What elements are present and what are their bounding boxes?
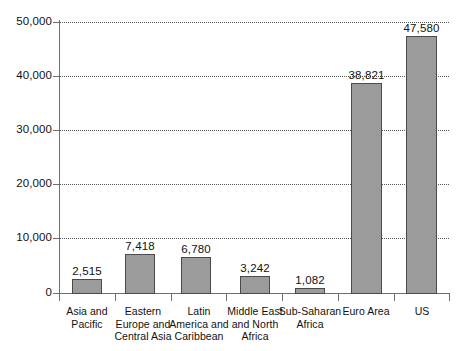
x-tick-4: [282, 294, 283, 301]
gridline-10000: [59, 238, 449, 239]
bar-value-us: 47,580: [386, 22, 457, 34]
y-axis-label-0: 0: [0, 287, 52, 299]
bar-us[interactable]: [406, 36, 437, 294]
bar-value-middle-east-north-africa: 3,242: [220, 262, 290, 274]
y-tick-20000: [53, 184, 60, 185]
y-axis-label-40000: 40,000: [0, 70, 52, 82]
x-tick-1: [115, 294, 116, 301]
bar-asia-and-pacific[interactable]: [72, 279, 102, 294]
x-axis-label-line: Pacific: [57, 318, 117, 331]
bar-chart: 50,000 40,000 30,000 20,000 10,000 0 2,5…: [0, 0, 465, 351]
x-axis-label-line: Africa: [277, 318, 343, 331]
bar-middle-east-north-africa[interactable]: [240, 276, 270, 294]
y-axis-label-30000: 30,000: [0, 124, 52, 136]
bar-euro-area[interactable]: [351, 83, 382, 294]
x-tick-6: [394, 294, 395, 301]
bar-value-asia-and-pacific: 2,515: [52, 265, 122, 277]
x-axis-label-line: Asia and: [57, 305, 117, 318]
x-axis-label-line: Africa: [222, 330, 288, 343]
y-axis-line: [59, 20, 60, 295]
bar-sub-saharan-africa[interactable]: [295, 288, 325, 294]
y-tick-10000: [53, 238, 60, 239]
bar-value-latin-america-caribbean: 6,780: [161, 243, 231, 255]
y-axis-label-20000: 20,000: [0, 178, 52, 190]
x-tick-3: [226, 294, 227, 301]
y-axis-label-50000: 50,000: [0, 16, 52, 28]
x-tick-7: [449, 294, 450, 301]
gridline-20000: [59, 184, 449, 185]
x-axis-label-line: US: [389, 305, 455, 318]
y-tick-30000: [53, 130, 60, 131]
x-tick-0: [59, 294, 60, 301]
x-axis-label-us: US: [389, 305, 455, 318]
bar-eastern-europe-central-asia[interactable]: [125, 254, 155, 294]
bar-value-sub-saharan-africa: 1,082: [275, 274, 345, 286]
bar-value-euro-area: 38,821: [331, 69, 402, 81]
bar-latin-america-caribbean[interactable]: [181, 257, 211, 294]
x-tick-5: [338, 294, 339, 301]
gridline-30000: [59, 130, 449, 131]
y-axis-label-10000: 10,000: [0, 232, 52, 244]
x-tick-2: [171, 294, 172, 301]
x-axis-label-asia-and-pacific: Asia and Pacific: [57, 305, 117, 330]
y-tick-40000: [53, 76, 60, 77]
y-tick-50000: [53, 22, 60, 23]
